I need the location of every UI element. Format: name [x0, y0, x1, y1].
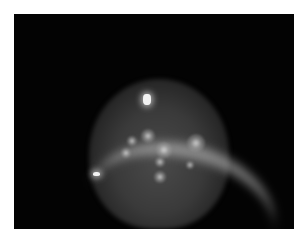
bright-spot [156, 142, 172, 158]
bright-spot [141, 129, 155, 143]
left-glare-point [93, 172, 100, 176]
bright-spot [186, 161, 194, 169]
bright-spot [121, 148, 131, 158]
top-glare-point [143, 94, 151, 105]
bright-spot [187, 134, 205, 152]
bright-spot [127, 136, 137, 146]
image-frame [14, 14, 294, 229]
bright-spot [154, 171, 166, 183]
bright-spot [155, 157, 165, 167]
